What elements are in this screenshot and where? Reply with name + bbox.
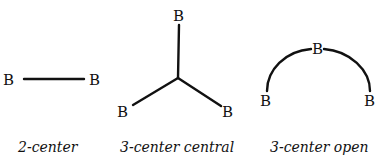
atom-b-top: B bbox=[173, 7, 184, 25]
bonding-diagram: B B 2-center B B B 3-center central B B … bbox=[0, 0, 377, 162]
panel-three-center-central: B B B 3-center central bbox=[117, 7, 234, 155]
label-three-center-central: 3-center central bbox=[120, 139, 234, 155]
atom-b-right: B bbox=[364, 92, 375, 110]
central-bond-top bbox=[178, 25, 179, 78]
panel-three-center-open: B B B 3-center open bbox=[260, 40, 375, 155]
open-bond-left bbox=[267, 49, 311, 91]
central-bond-right bbox=[178, 78, 221, 106]
atom-b-right: B bbox=[89, 71, 100, 89]
label-two-center: 2-center bbox=[17, 139, 79, 155]
atom-b-right: B bbox=[222, 103, 233, 121]
atom-b-left: B bbox=[260, 92, 271, 110]
atom-b-left: B bbox=[117, 103, 128, 121]
panel-two-center: B B 2-center bbox=[3, 71, 100, 155]
open-bond-right bbox=[324, 49, 370, 91]
central-bond-left bbox=[133, 78, 178, 105]
atom-b-top: B bbox=[312, 40, 323, 58]
atom-b-left: B bbox=[3, 71, 14, 89]
label-three-center-open: 3-center open bbox=[270, 139, 369, 155]
